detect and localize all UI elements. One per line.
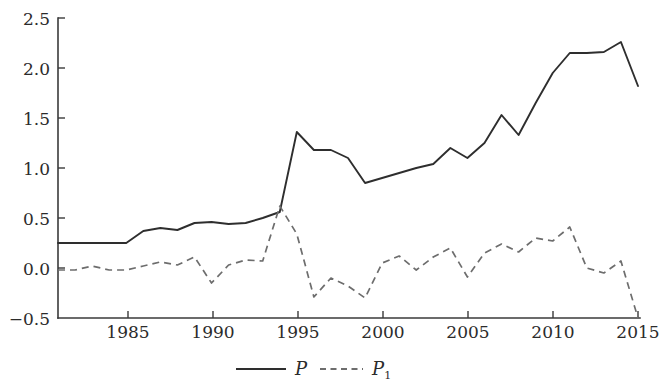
chart-series — [58, 42, 638, 318]
y-tick-label: 1.5 — [23, 109, 50, 129]
y-tick-label: 2.0 — [23, 59, 50, 79]
chart-page: 2.5 2.0 1.5 1.0 0.5 0.0 −0.5 1985 1990 1… — [0, 0, 665, 386]
chart-axes — [58, 18, 640, 318]
series-line-p1 — [58, 206, 638, 318]
x-tick-label: 1985 — [106, 322, 149, 342]
legend-label-p1-subscript: 1 — [384, 369, 391, 382]
x-tick-label: 2015 — [616, 322, 659, 342]
y-tick-label: 2.5 — [23, 9, 50, 29]
x-tick-label: 1995 — [276, 322, 319, 342]
x-tick-label: 2000 — [361, 322, 404, 342]
x-tick-label: 2010 — [531, 322, 574, 342]
y-tick-label: 0.0 — [23, 259, 50, 279]
series-line-p — [58, 42, 638, 243]
y-axis-ticks: 2.5 2.0 1.5 1.0 0.5 0.0 −0.5 — [9, 9, 65, 329]
line-chart: 2.5 2.0 1.5 1.0 0.5 0.0 −0.5 1985 1990 1… — [0, 0, 665, 386]
x-tick-label: 1990 — [191, 322, 234, 342]
x-axis-ticks: 1985 1990 1995 2000 2005 2010 2015 — [106, 311, 659, 342]
legend-label-p: P — [294, 358, 308, 379]
legend-label-p1-base: P — [371, 358, 385, 379]
y-tick-label: 0.5 — [23, 209, 50, 229]
legend-label-p1: P1 — [371, 358, 391, 382]
y-tick-label: 1.0 — [23, 159, 50, 179]
chart-legend: P P1 — [236, 358, 391, 382]
y-tick-label: −0.5 — [9, 309, 50, 329]
x-tick-label: 2005 — [446, 322, 489, 342]
